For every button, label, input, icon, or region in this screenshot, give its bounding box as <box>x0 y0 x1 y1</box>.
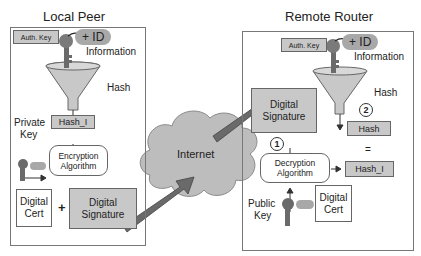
local-signature-line1: Digital <box>89 197 117 209</box>
remote-signature-line1: Digital <box>270 99 298 111</box>
remote-hash-label: Hash <box>374 87 397 99</box>
remote-hash-box: Hash <box>347 121 391 136</box>
remote-router-title: Remote Router <box>285 9 373 24</box>
decryption-line1: Decryption <box>275 158 316 168</box>
public-key-label-line2: Key <box>254 210 271 222</box>
plus-sign: + <box>58 202 66 214</box>
equals-sign: = <box>365 144 371 156</box>
private-key-label-line2: Key <box>20 129 37 141</box>
local-digital-signature-box: Digital Signature <box>69 188 137 229</box>
remote-auth-key-box: Auth. Key <box>281 38 327 52</box>
remote-id-label: + ID <box>349 36 371 48</box>
remote-signature-line2: Signature <box>263 111 306 123</box>
remote-information-label: Information <box>354 51 404 63</box>
remote-digital-cert-box: Digital Cert <box>315 185 352 222</box>
local-cert-line1: Digital <box>20 196 48 208</box>
local-cert-line2: Cert <box>25 208 44 220</box>
local-id-label: + ID <box>82 31 104 43</box>
encryption-line2: Algorithm <box>61 161 97 171</box>
internet-label: Internet <box>177 148 214 160</box>
local-hash-label: Hash <box>107 82 130 94</box>
local-digital-cert-box: Digital Cert <box>16 189 52 227</box>
local-auth-key-box: Auth. Key <box>13 30 59 44</box>
public-key-label-line1: Public <box>248 198 275 210</box>
local-peer-title: Local Peer <box>43 9 105 24</box>
encryption-algorithm-box: Encryption Algorithm <box>49 145 108 176</box>
decryption-line2: Algorithm <box>277 168 313 178</box>
remote-cert-line2: Cert <box>324 204 343 216</box>
local-signature-line2: Signature <box>82 209 125 221</box>
remote-hash-i-box: Hash_I <box>345 161 394 177</box>
encryption-line1: Encryption <box>58 151 98 161</box>
remote-cert-line1: Digital <box>320 192 348 204</box>
remote-digital-signature-box: Digital Signature <box>251 88 317 133</box>
decryption-algorithm-box: Decryption Algorithm <box>260 153 330 183</box>
local-hash-i-box: Hash_I <box>51 115 95 129</box>
local-information-label: Information <box>86 46 136 58</box>
private-key-label-line1: Private <box>14 117 45 129</box>
step-2-badge: 2 <box>359 103 373 117</box>
step-1-badge: 1 <box>270 137 284 151</box>
